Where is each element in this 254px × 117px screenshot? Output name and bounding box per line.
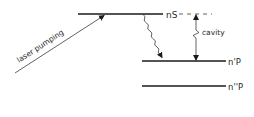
level-n2P-label: n''P — [228, 82, 243, 92]
energy-level-diagram: nS n'P n''P laser pumping cavity — [0, 0, 254, 117]
laser-pumping-arrow — [15, 16, 104, 74]
laser-pumping-label: laser pumping — [15, 28, 65, 65]
level-nS-label: nS — [166, 10, 178, 20]
cavity-tuning-zigzag — [193, 30, 199, 38]
decay-wavy-arrow — [143, 14, 162, 58]
level-n1P-label: n'P — [228, 57, 241, 67]
cavity-label: cavity — [202, 28, 225, 37]
